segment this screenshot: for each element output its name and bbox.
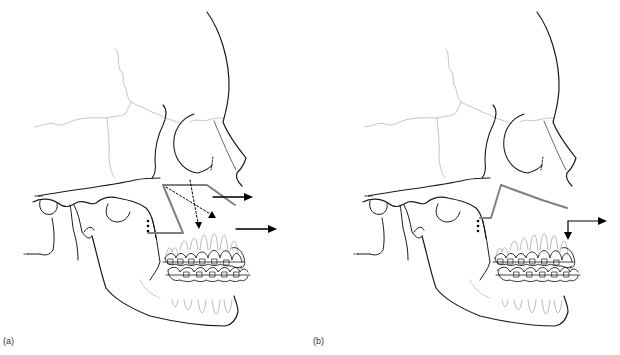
skull-diagram-b [310,0,620,355]
panel-label-b: (b) [313,336,324,346]
panel-label-a: (a) [3,336,14,346]
panel-a: (a) [0,0,310,355]
panel-b: (b) [310,0,620,355]
skull-diagram-a [0,0,310,355]
